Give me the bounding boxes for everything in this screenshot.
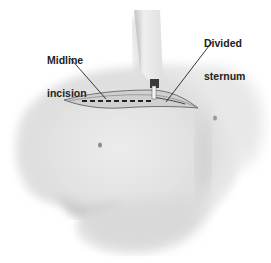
label-midline-incision: Midline incision [47,33,87,121]
label-midline-line1: Midline [47,55,87,66]
label-midline-line2: incision [47,88,87,99]
label-sternum-line1: Divided [204,38,245,49]
label-sternum-line2: sternum [204,71,245,82]
nipple-left [98,142,102,147]
saw-blade [152,86,156,99]
label-divided-sternum: Divided sternum [204,16,245,104]
illustration-canvas: Midline incision Divided sternum [0,0,271,263]
nipple-right [213,115,217,120]
